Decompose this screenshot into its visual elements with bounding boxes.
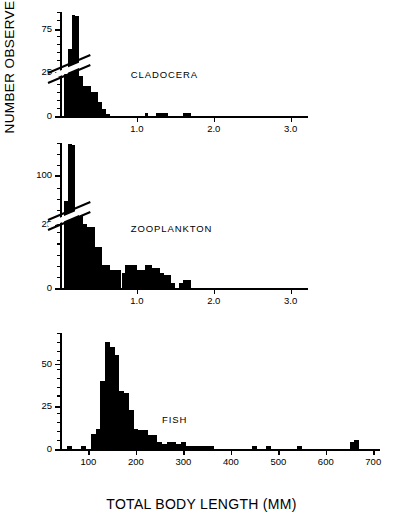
- y-axis-tick-label: 100: [24, 169, 52, 180]
- x-axis-tick: [137, 117, 139, 122]
- y-axis-tick: [55, 29, 61, 31]
- x-axis-tick-label: 3.0: [279, 295, 303, 306]
- y-axis-minor-tick: [57, 188, 62, 189]
- histogram-bar: [297, 446, 302, 449]
- y-axis-tick-label: 50: [24, 358, 52, 369]
- x-axis-tick-label: 700: [361, 456, 385, 467]
- plot-area-cladocera: 1.02.03.002575CLADOCERA: [60, 12, 395, 137]
- y-axis-tick: [55, 224, 61, 226]
- y-axis-minor-tick: [57, 84, 62, 85]
- x-axis-line: [60, 449, 380, 451]
- x-axis-tick-label: 200: [124, 456, 148, 467]
- x-axis-tick-label: 2.0: [202, 123, 226, 134]
- x-axis-tick: [137, 289, 139, 294]
- y-axis-minor-tick: [57, 199, 62, 200]
- x-axis-tick: [214, 289, 216, 294]
- histogram-bar: [81, 446, 86, 449]
- y-axis-tick-label: 75: [24, 23, 52, 34]
- x-axis-line: [60, 288, 308, 290]
- y-axis-minor-tick: [57, 36, 62, 37]
- y-axis-minor-tick: [57, 68, 62, 69]
- x-axis-tick-label: 500: [266, 456, 290, 467]
- y-axis-minor-tick: [57, 333, 62, 334]
- histogram-bar: [187, 280, 191, 288]
- y-axis-tick-label: 0: [24, 110, 52, 121]
- x-axis-tick-label: 600: [314, 456, 338, 467]
- y-axis-minor-tick: [57, 100, 62, 101]
- y-axis-minor-tick: [57, 351, 62, 352]
- y-axis-label: NUMBER OBSERVED: [2, 0, 24, 162]
- y-axis-minor-tick: [57, 243, 62, 244]
- y-axis-minor-tick: [57, 422, 62, 423]
- histogram-bar: [67, 446, 72, 449]
- y-axis-minor-tick: [57, 360, 62, 361]
- x-axis-label: TOTAL BODY LENGTH (MM): [0, 496, 403, 512]
- series-label: ZOOPLANKTON: [131, 223, 213, 234]
- y-axis-minor-tick: [57, 413, 62, 414]
- y-axis-minor-tick: [57, 255, 62, 256]
- x-axis-tick-label: 400: [219, 456, 243, 467]
- histogram-bar: [266, 446, 271, 449]
- x-axis-tick: [231, 450, 233, 455]
- x-axis-tick-label: 2.0: [202, 295, 226, 306]
- y-axis-tick-label: 25: [24, 400, 52, 411]
- y-axis-minor-tick: [57, 143, 62, 144]
- figure-histogram-panels: NUMBER OBSERVED 1.02.03.002575CLADOCERA …: [0, 0, 403, 525]
- x-axis-tick-label: 3.0: [279, 123, 303, 134]
- x-axis-tick: [291, 117, 293, 122]
- y-axis-minor-tick: [57, 369, 62, 370]
- x-axis-tick: [88, 450, 90, 455]
- y-axis-tick: [55, 175, 61, 177]
- x-axis-tick: [278, 450, 280, 455]
- y-axis-minor-tick: [57, 60, 62, 61]
- series-label: CLADOCERA: [131, 69, 198, 80]
- y-axis-tick-label: 0: [24, 282, 52, 293]
- x-axis-tick-label: 1.0: [125, 295, 149, 306]
- y-axis-line: [60, 12, 62, 118]
- x-axis-line: [60, 116, 308, 118]
- y-axis-tick: [55, 116, 61, 118]
- y-axis-minor-tick: [57, 440, 62, 441]
- y-axis-tick: [55, 72, 61, 74]
- y-axis-tick-label: 0: [24, 443, 52, 454]
- x-axis-tick: [326, 450, 328, 455]
- x-axis-tick: [214, 117, 216, 122]
- histogram-bar: [106, 114, 110, 116]
- y-axis-minor-tick: [57, 277, 62, 278]
- y-axis-minor-tick: [57, 210, 62, 211]
- y-axis-minor-tick: [57, 12, 62, 13]
- y-axis-minor-tick: [57, 92, 62, 93]
- histogram-bar: [187, 113, 191, 116]
- y-axis-tick: [55, 449, 61, 451]
- y-axis-minor-tick: [57, 378, 62, 379]
- y-axis-minor-tick: [57, 165, 62, 166]
- y-axis-tick-label: 25: [24, 218, 52, 229]
- x-axis-tick-label: 100: [76, 456, 100, 467]
- panel-fish: 10020030040050060070002550FISH: [60, 333, 395, 473]
- y-axis-minor-tick: [57, 44, 62, 45]
- y-axis-minor-tick: [57, 154, 62, 155]
- y-axis-minor-tick: [57, 76, 62, 77]
- x-axis-tick-label: 1.0: [125, 123, 149, 134]
- x-axis-tick: [291, 289, 293, 294]
- histogram-bar: [145, 113, 149, 116]
- y-axis-minor-tick: [57, 232, 62, 233]
- histogram-bar: [164, 113, 168, 116]
- y-axis-minor-tick: [57, 387, 62, 388]
- y-axis-minor-tick: [57, 20, 62, 21]
- y-axis-tick-label: 25: [24, 66, 52, 77]
- y-axis-minor-tick: [57, 266, 62, 267]
- plot-area-fish: 10020030040050060070002550FISH: [60, 333, 395, 473]
- y-axis-minor-tick: [57, 431, 62, 432]
- y-axis-minor-tick: [57, 52, 62, 53]
- histogram-bar: [210, 446, 215, 449]
- x-axis-tick-label: 300: [171, 456, 195, 467]
- y-axis-tick: [55, 406, 61, 408]
- plot-area-zooplankton: 1.02.03.0025100ZOOPLANKTON: [60, 143, 395, 311]
- x-axis-tick: [373, 450, 375, 455]
- y-axis-minor-tick: [57, 108, 62, 109]
- panel-cladocera: 1.02.03.002575CLADOCERA: [60, 12, 395, 137]
- x-axis-tick: [136, 450, 138, 455]
- y-axis-minor-tick: [57, 342, 62, 343]
- y-axis-tick: [55, 288, 61, 290]
